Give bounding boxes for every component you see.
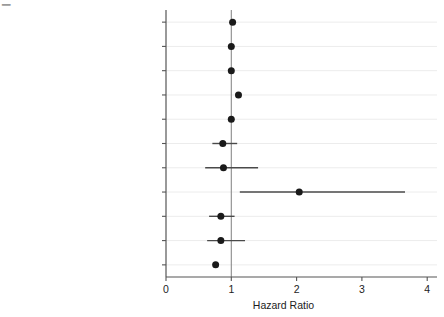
x-axis-tick-label: 3 <box>359 283 365 295</box>
x-axis-tick-label: 1 <box>228 283 234 295</box>
point-marker <box>229 19 236 26</box>
x-axis-tick-label: 0 <box>163 283 169 295</box>
point-marker <box>217 237 224 244</box>
point-marker <box>220 164 227 171</box>
point-marker <box>219 140 226 147</box>
forest-plot-figure: ▁ Ln(Refugee Inflows)Ln(Total Refugee Ou… <box>0 0 444 317</box>
x-axis-tick-label: 4 <box>424 283 430 295</box>
gridlines-group <box>166 22 437 265</box>
y-axis-labels: Ln(Refugee Inflows)Ln(Total Refugee Outf… <box>0 0 162 317</box>
point-marker <box>235 91 242 98</box>
point-marker <box>228 43 235 50</box>
point-marker <box>296 189 303 196</box>
point-marker <box>212 261 219 268</box>
point-marker <box>228 116 235 123</box>
x-axis-tick-label: 2 <box>294 283 300 295</box>
point-marker <box>228 67 235 74</box>
point-marker <box>217 213 224 220</box>
x-axis-title: Hazard Ratio <box>253 299 314 311</box>
